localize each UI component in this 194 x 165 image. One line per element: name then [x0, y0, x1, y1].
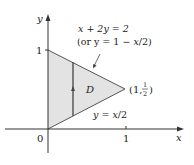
- origin-label: 0: [37, 133, 43, 144]
- y-tick-label: 1: [36, 45, 42, 56]
- lower-line-equation: y = x/2: [92, 109, 127, 120]
- vertex-label-denominator: 2: [143, 90, 147, 98]
- upper-alt-prefix: (or y = 1 −: [77, 36, 133, 47]
- y-axis-label: y: [36, 13, 43, 24]
- upper-line-equation: x + 2y = 2: [78, 23, 129, 34]
- y-axis-arrow-icon: [46, 14, 51, 21]
- upper-alt-suffix: /2): [139, 36, 152, 47]
- region-label: D: [85, 84, 94, 95]
- region-diagram: y x 0 1 1 D x + 2y = 2 (or y = 1 − x/2) …: [0, 0, 194, 165]
- vertex-label-numerator: 1: [143, 81, 147, 89]
- x-axis-label: x: [176, 132, 182, 143]
- vertex-label: (1, 1 2 ): [129, 81, 153, 98]
- x-axis-arrow-icon: [177, 127, 184, 132]
- upper-line-alt-equation: (or y = 1 − x/2): [77, 36, 152, 47]
- vertex-label-suffix: ): [149, 84, 153, 95]
- lower-eq-prefix: y =: [92, 109, 112, 120]
- lower-eq-suffix: /2: [118, 109, 127, 120]
- vertex-label-prefix: (1,: [129, 84, 142, 95]
- x-tick-label: 1: [123, 133, 129, 144]
- pointer-line: [94, 54, 100, 66]
